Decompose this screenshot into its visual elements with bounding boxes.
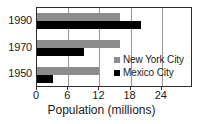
x-axis-ticks: 06121824 (36, 87, 192, 101)
x-tick-label-24: 24 (155, 90, 167, 101)
bar-1990-new-york-city (37, 13, 120, 21)
y-tick-label-1990: 1990 (8, 15, 32, 26)
legend-item-mexico-city: Mexico City (114, 67, 184, 78)
bar-1970-new-york-city (37, 40, 120, 48)
y-tick-label-1970: 1970 (8, 42, 32, 53)
legend-swatch-icon (114, 57, 120, 63)
legend-swatch-icon (114, 70, 120, 76)
x-tick-label-12: 12 (92, 90, 104, 101)
bar-1950-new-york-city (37, 67, 99, 75)
bar-1970-mexico-city (37, 48, 84, 56)
x-tick-label-18: 18 (123, 90, 135, 101)
legend-item-new-york-city: New York City (114, 54, 184, 65)
chart-legend: New York CityMexico City (114, 54, 184, 80)
legend-label: Mexico City (123, 68, 174, 78)
x-axis-title: Population (millions) (0, 104, 203, 117)
bar-group-1990 (37, 13, 191, 30)
x-tick-label-6: 6 (64, 90, 70, 101)
legend-label: New York City (123, 55, 184, 65)
y-tick-label-1950: 1950 (8, 68, 32, 79)
population-bar-chart: 199019701950 06121824 Population (millio… (0, 0, 203, 124)
y-axis-labels: 199019701950 (0, 7, 34, 87)
bar-1990-mexico-city (37, 21, 141, 29)
x-tick-label-0: 0 (33, 90, 39, 101)
bar-1950-mexico-city (37, 75, 53, 83)
